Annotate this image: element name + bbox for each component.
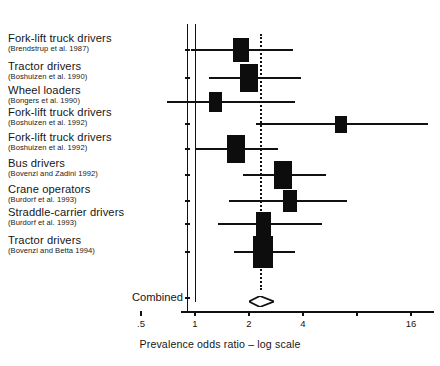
category-tick: [185, 77, 190, 78]
value-axis-tick-unlabeled: [356, 311, 357, 316]
category-tick: [185, 174, 190, 175]
value-axis-tick-label: 1: [192, 318, 197, 329]
point-estimate-box: [256, 212, 271, 235]
study-label: Bus drivers(Bovenzi and Zadini 1992): [8, 158, 183, 178]
study-occupation: Bus drivers: [8, 158, 183, 169]
study-citation: (Bongers et al. 1990): [8, 97, 183, 105]
study-occupation: Tractor drivers: [8, 61, 183, 72]
study-citation: (Boshuizen et al. 1992): [8, 144, 183, 152]
value-axis-line: [181, 311, 434, 313]
study-occupation: Wheel loaders: [8, 85, 183, 96]
value-axis-tick-label: .5: [137, 318, 145, 329]
category-tick: [185, 200, 190, 201]
value-axis-tick: [248, 311, 249, 316]
study-occupation: Fork-lift truck drivers: [8, 107, 183, 118]
null-reference-line: [195, 24, 196, 302]
point-estimate-box: [335, 116, 347, 133]
study-citation: (Boshuizen et al. 1990): [8, 73, 183, 81]
forest-plot-figure: Fork-lift truck drivers(Brendstrup et al…: [0, 0, 440, 366]
point-estimate-box: [274, 161, 291, 189]
category-tick: [185, 223, 190, 224]
point-estimate-box: [240, 64, 258, 93]
category-tick: [185, 123, 190, 124]
category-axis-spine: [187, 24, 188, 311]
combined-label: Combined: [8, 291, 183, 303]
value-axis-tick-label: 16: [406, 318, 417, 329]
confidence-interval-bar: [167, 101, 295, 103]
point-estimate-box: [227, 135, 245, 163]
study-label: Fork-lift truck drivers(Boshuizen et al.…: [8, 132, 183, 152]
study-citation: (Boshuizen et al. 1992): [8, 119, 183, 127]
study-occupation: Crane operators: [8, 184, 183, 195]
study-citation: (Bovenzi and Zadini 1992): [8, 170, 183, 178]
category-tick: [185, 251, 190, 252]
value-axis-tick-label: 4: [300, 318, 305, 329]
study-label: Wheel loaders(Bongers et al. 1990): [8, 85, 183, 105]
study-occupation: Straddle-carrier drivers: [8, 207, 183, 218]
category-tick: [185, 148, 190, 149]
point-estimate-box: [283, 190, 297, 211]
study-occupation: Fork-lift truck drivers: [8, 33, 183, 44]
study-label: Straddle-carrier drivers(Burdorf et al. …: [8, 207, 183, 227]
study-occupation: Tractor drivers: [8, 235, 183, 246]
study-label: Crane operators(Burdorf et al. 1993): [8, 184, 183, 204]
point-estimate-box: [233, 38, 249, 62]
study-label: Tractor drivers(Boshuizen et al. 1990): [8, 61, 183, 81]
study-citation: (Brendstrup et al. 1987): [8, 45, 183, 53]
value-axis-tick: [140, 311, 141, 316]
study-citation: (Burdorf et al. 1993): [8, 219, 183, 227]
study-citation: (Burdorf et al. 1993): [8, 196, 183, 204]
point-estimate-box: [253, 236, 273, 268]
value-axis-tick: [410, 311, 411, 316]
study-occupation: Fork-lift truck drivers: [8, 132, 183, 143]
pooled-estimate-diamond: [249, 293, 274, 304]
study-label: Tractor drivers(Bovenzi and Betta 1994): [8, 235, 183, 255]
value-axis-tick: [302, 311, 303, 316]
study-label: Fork-lift truck drivers(Boshuizen et al.…: [8, 107, 183, 127]
value-axis-tick: [194, 311, 195, 316]
study-label: Fork-lift truck drivers(Brendstrup et al…: [8, 33, 183, 53]
category-tick-combined: [185, 297, 190, 298]
point-estimate-box: [209, 92, 222, 111]
category-tick: [185, 49, 190, 50]
study-citation: (Bovenzi and Betta 1994): [8, 247, 183, 255]
value-axis-tick-label: 2: [246, 318, 251, 329]
x-axis-title: Prevalence odds ratio – log scale: [0, 338, 440, 350]
